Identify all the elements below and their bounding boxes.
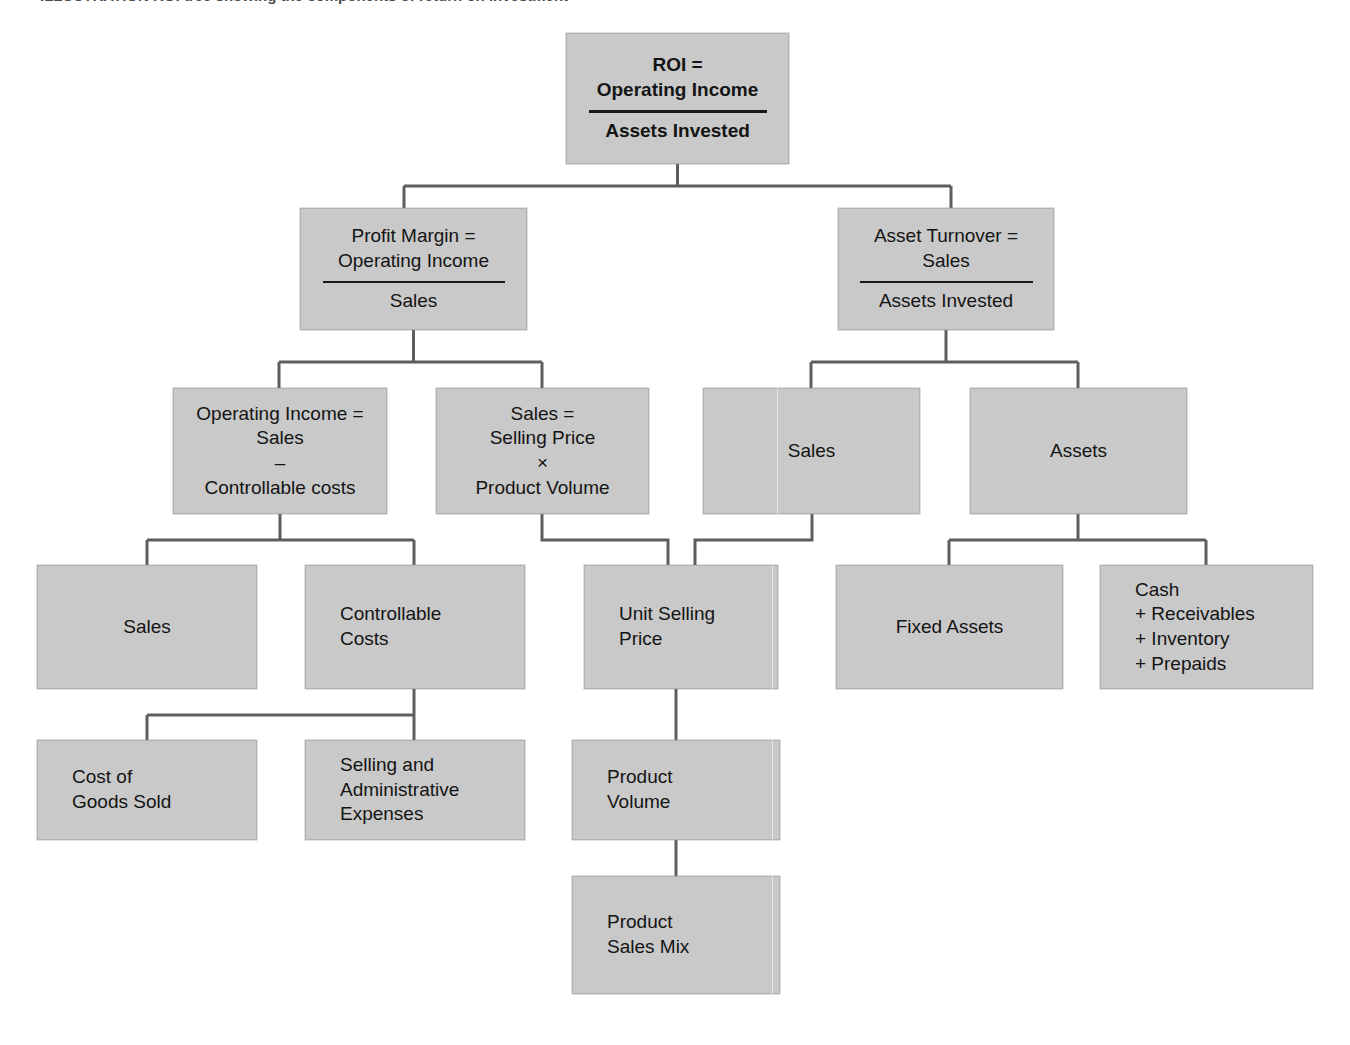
- node-text-assets: Assets: [1050, 439, 1107, 464]
- node-product-volume: ProductVolume: [572, 740, 780, 840]
- node-text-unit-selling-price: Unit SellingPrice: [585, 602, 715, 651]
- node-text-selling-admin-expenses: Selling andAdministrativeExpenses: [306, 753, 459, 827]
- node-line: Selling Price: [475, 426, 609, 451]
- node-line: + Receivables: [1135, 602, 1255, 627]
- node-line: Controllable costs: [196, 476, 363, 501]
- fraction-rule: [589, 110, 767, 113]
- node-text-product-volume: ProductVolume: [573, 765, 672, 814]
- node-line: Assets: [1050, 439, 1107, 464]
- node-line: Volume: [607, 790, 672, 815]
- node-text-cost-of-goods-sold: Cost ofGoods Sold: [38, 765, 171, 814]
- node-line: Profit Margin =: [323, 224, 505, 249]
- node-text-profit-margin: Profit Margin =Operating IncomeSales: [323, 224, 505, 313]
- node-line: + Inventory: [1135, 627, 1255, 652]
- node-profit-margin: Profit Margin =Operating IncomeSales: [300, 208, 527, 330]
- node-cost-of-goods-sold: Cost ofGoods Sold: [37, 740, 257, 840]
- node-sales-leaf: Sales: [37, 565, 257, 689]
- edge-assets-split: [949, 514, 1206, 565]
- node-line: Operating Income: [323, 249, 505, 274]
- edge-asset-turnover-split: [811, 330, 1078, 388]
- node-text-fixed-assets: Fixed Assets: [896, 615, 1004, 640]
- edge-roi-split: [404, 164, 951, 208]
- node-cash-group: Cash+ Receivables+ Inventory+ Prepaids: [1100, 565, 1313, 689]
- node-text-asset-turnover: Asset Turnover =SalesAssets Invested: [860, 224, 1033, 313]
- node-unit-selling-price: Unit SellingPrice: [584, 565, 778, 689]
- node-line: Sales: [123, 615, 171, 640]
- node-line: Assets Invested: [860, 289, 1033, 314]
- edge-profit-margin-split: [279, 330, 542, 388]
- fraction-rule: [860, 281, 1033, 283]
- node-text-controllable-costs: ControllableCosts: [306, 602, 441, 651]
- node-text-operating-income: Operating Income =Sales–Controllable cos…: [196, 402, 363, 501]
- node-fixed-assets: Fixed Assets: [836, 565, 1063, 689]
- node-text-cash-group: Cash+ Receivables+ Inventory+ Prepaids: [1101, 578, 1255, 677]
- node-text-roi: ROI =Operating IncomeAssets Invested: [589, 53, 767, 143]
- node-text-sales-turnover: Sales: [788, 439, 836, 464]
- diagram-canvas: ILLUSTRATION ROI tree showing the compon…: [0, 0, 1350, 1045]
- node-sales-formula: Sales =Selling Price×Product Volume: [436, 388, 649, 514]
- node-line: Product: [607, 910, 689, 935]
- node-line: Controllable: [340, 602, 441, 627]
- node-sales-turnover: Sales: [703, 388, 920, 514]
- node-line: Product Volume: [475, 476, 609, 501]
- node-line: Unit Selling: [619, 602, 715, 627]
- node-line: Fixed Assets: [896, 615, 1004, 640]
- node-operating-income: Operating Income =Sales–Controllable cos…: [173, 388, 387, 514]
- caption-ghost-text: ILLUSTRATION ROI tree showing the compon…: [40, 0, 568, 4]
- node-line: –: [196, 451, 363, 476]
- node-text-sales-formula: Sales =Selling Price×Product Volume: [475, 402, 609, 501]
- node-line: Asset Turnover =: [860, 224, 1033, 249]
- node-line: Selling and: [340, 753, 459, 778]
- node-line: Sales =: [475, 402, 609, 427]
- edge-operating-income-split: [147, 514, 414, 565]
- node-line: ROI =: [589, 53, 767, 78]
- node-controllable-costs: ControllableCosts: [305, 565, 525, 689]
- caption-ghost-strip: ILLUSTRATION ROI tree showing the compon…: [0, 0, 1350, 9]
- node-line: Sales: [323, 289, 505, 314]
- node-line: Expenses: [340, 802, 459, 827]
- node-line: Assets Invested: [589, 119, 767, 144]
- fraction-rule: [323, 281, 505, 283]
- node-line: Sales Mix: [607, 935, 689, 960]
- node-line: Cash: [1135, 578, 1255, 603]
- node-selling-admin-expenses: Selling andAdministrativeExpenses: [305, 740, 525, 840]
- node-line: Sales: [788, 439, 836, 464]
- node-line: Sales: [196, 426, 363, 451]
- node-line: Product: [607, 765, 672, 790]
- node-line: Administrative: [340, 778, 459, 803]
- node-assets: Assets: [970, 388, 1187, 514]
- node-line: Operating Income =: [196, 402, 363, 427]
- node-line: + Prepaids: [1135, 652, 1255, 677]
- node-line: Costs: [340, 627, 441, 652]
- edge-controllable-costs-split: [147, 689, 414, 740]
- edge-sales-formula-to-unit-price: [542, 514, 668, 565]
- edge-sales-turnover-to-unit-price: [695, 514, 812, 565]
- node-roi: ROI =Operating IncomeAssets Invested: [566, 33, 789, 164]
- node-product-sales-mix: ProductSales Mix: [572, 876, 780, 994]
- node-line: Operating Income: [589, 78, 767, 103]
- node-asset-turnover: Asset Turnover =SalesAssets Invested: [838, 208, 1054, 330]
- node-line: Price: [619, 627, 715, 652]
- node-line: Goods Sold: [72, 790, 171, 815]
- node-text-sales-leaf: Sales: [123, 615, 171, 640]
- node-line: ×: [475, 451, 609, 476]
- node-line: Sales: [860, 249, 1033, 274]
- node-text-product-sales-mix: ProductSales Mix: [573, 910, 689, 959]
- node-line: Cost of: [72, 765, 171, 790]
